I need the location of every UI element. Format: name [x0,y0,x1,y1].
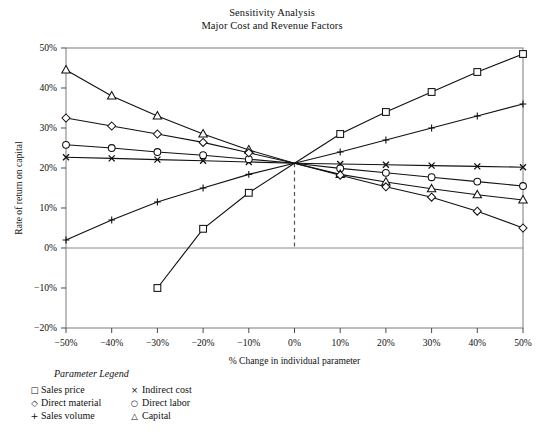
datapoint-sales-volume [520,101,527,108]
datapoint-direct-material [153,130,161,138]
legend-label-sales-volume: Sales volume [41,410,127,422]
y-tick-label: −20% [34,322,57,333]
y-tick-label: 30% [39,122,57,133]
datapoint-direct-material [62,114,70,122]
y-tick-label: 0% [44,242,57,253]
x-tick-label: −50% [55,337,78,348]
datapoint-sales-price [428,89,435,96]
datapoint-sales-volume [63,237,70,244]
datapoint-direct-labor [108,145,115,152]
datapoint-sales-volume [154,199,161,206]
datapoint-direct-material [519,224,527,232]
datapoint-direct-labor [200,152,207,159]
y-tick-label: 20% [39,162,57,173]
legend-symbol-indirect-cost: × [127,384,142,396]
datapoint-sales-volume [108,217,115,224]
datapoint-sales-price [520,51,527,58]
legend-items: □Sales price×Indirect cost◇Direct materi… [28,384,278,422]
datapoint-sales-price [474,69,481,76]
y-tick-label: 40% [39,82,57,93]
x-tick-label: 30% [423,337,441,348]
legend-label-sales-price: Sales price [41,384,127,396]
datapoint-direct-labor [428,174,435,181]
x-tick-label: 0% [288,337,301,348]
x-axis-title: % Change in individual parameter [229,355,361,366]
datapoint-direct-labor [63,141,70,148]
datapoint-sales-volume [200,185,207,192]
chart-page: Sensitivity Analysis Major Cost and Reve… [0,0,544,436]
legend-label-direct-material: Direct material [41,397,127,409]
datapoint-sales-volume [337,149,344,156]
x-tick-label: 50% [514,337,532,348]
datapoint-sales-volume [428,125,435,132]
legend-symbol-capital: △ [127,410,142,422]
legend-symbol-sales-volume: + [28,410,41,422]
datapoint-direct-material [428,193,436,201]
legend-title: Parameter Legend [54,368,278,379]
x-tick-label: 10% [331,337,349,348]
datapoint-capital [62,66,70,73]
y-tick-label: −10% [34,282,57,293]
datapoint-direct-labor [154,149,161,156]
datapoint-sales-price [245,189,252,196]
legend-label-indirect-cost: Indirect cost [142,384,278,396]
datapoint-sales-price [383,109,390,116]
legend-symbol-direct-material: ◇ [28,397,41,409]
datapoint-sales-volume [383,137,390,144]
datapoint-capital [108,92,116,99]
datapoint-sales-price [200,225,207,232]
datapoint-sales-price [154,285,161,292]
legend-label-direct-labor: Direct labor [142,397,278,409]
datapoint-direct-labor [474,178,481,185]
legend-symbol-sales-price: □ [28,384,41,396]
datapoint-direct-labor [383,169,390,176]
datapoint-direct-material [108,122,116,130]
legend-label-capital: Capital [142,410,278,422]
datapoint-direct-labor [520,183,527,190]
datapoint-direct-material [336,171,344,179]
y-axis-title: Rate of return on capital [13,141,24,235]
x-tick-label: 20% [377,337,395,348]
datapoint-direct-material [473,207,481,215]
parameter-legend: Parameter Legend □Sales price×Indirect c… [28,368,278,422]
x-tick-label: 40% [469,337,487,348]
y-tick-label: 50% [39,42,57,53]
x-tick-label: −30% [146,337,169,348]
x-tick-label: −40% [100,337,123,348]
x-tick-label: −10% [237,337,260,348]
datapoint-sales-price [337,131,344,138]
datapoint-sales-volume [245,171,252,178]
datapoint-sales-volume [474,113,481,120]
y-tick-label: 10% [39,202,57,213]
legend-symbol-direct-labor: ○ [127,397,142,409]
datapoint-direct-material [199,138,207,146]
x-tick-label: −20% [192,337,215,348]
